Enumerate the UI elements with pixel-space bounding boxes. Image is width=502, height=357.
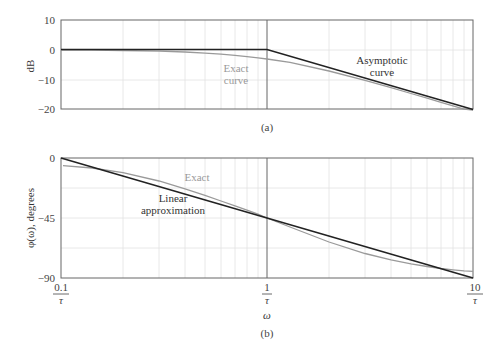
svg-text:τ: τ <box>265 294 270 306</box>
linear-approximation-label: Linear <box>159 192 188 204</box>
svg-text:−90: −90 <box>38 272 56 284</box>
x-tick-1-tau: 1 τ <box>262 281 272 306</box>
caption-a: (a) <box>261 121 274 134</box>
phase-y-ticks: 0 −45 −90 <box>38 152 56 284</box>
x-axis-label: ω <box>263 309 271 321</box>
svg-text:0.1: 0.1 <box>54 281 68 293</box>
svg-text:−10: −10 <box>38 74 56 86</box>
magnitude-y-ticks: 10 0 −10 −20 <box>38 14 56 115</box>
x-tick-0-1-tau: 0.1 τ <box>53 281 69 306</box>
x-tick-10-tau: 10 τ <box>467 281 483 306</box>
caption-b: (b) <box>261 327 274 340</box>
asymptotic-curve-label: Asymptotic <box>356 54 407 66</box>
exact-curve-label-2: curve <box>224 74 249 86</box>
asymptotic-curve-label-2: curve <box>370 66 395 78</box>
bode-plot-figure: 10 0 −10 −20 dB Exact curve Asymptotic c… <box>0 0 502 357</box>
exact-phase-label: Exact <box>184 171 209 183</box>
svg-text:10: 10 <box>470 281 482 293</box>
svg-text:0: 0 <box>50 152 56 164</box>
svg-text:0: 0 <box>50 44 56 56</box>
svg-text:1: 1 <box>264 281 270 293</box>
exact-curve-label: Exact <box>223 62 248 74</box>
svg-text:τ: τ <box>59 294 64 306</box>
svg-text:10: 10 <box>44 14 56 26</box>
linear-approximation-label-2: approximation <box>141 204 206 216</box>
svg-text:τ: τ <box>473 294 478 306</box>
phase-y-label: φ(ω), degrees <box>24 188 37 248</box>
phase-plot: 0 −45 −90 φ(ω), degrees Exact Linear app… <box>24 152 483 340</box>
svg-text:−45: −45 <box>38 212 56 224</box>
magnitude-plot: 10 0 −10 −20 dB Exact curve Asymptotic c… <box>24 14 473 134</box>
magnitude-y-label: dB <box>24 60 36 73</box>
svg-text:−20: −20 <box>38 103 56 115</box>
